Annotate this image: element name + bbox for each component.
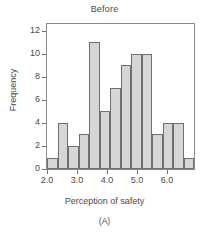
- y-axis-title: Frequency: [8, 45, 18, 135]
- x-tick-mark: [137, 170, 138, 174]
- y-tick: 10: [0, 54, 46, 55]
- y-axis: Frequency 024681012: [0, 23, 46, 171]
- y-tick: 12: [0, 31, 46, 32]
- y-tick: 6: [0, 100, 46, 101]
- y-tick-label: 2: [35, 140, 40, 151]
- histogram-bar: [184, 158, 195, 170]
- x-tick-mark: [107, 170, 108, 174]
- x-tick-label: 2.0: [35, 175, 59, 185]
- histogram-bar: [121, 65, 132, 169]
- histogram-bar: [79, 134, 90, 169]
- y-tick: 4: [0, 123, 46, 124]
- y-tick: 2: [0, 146, 46, 147]
- y-tick-label: 10: [30, 48, 40, 59]
- histogram-bar: [152, 134, 163, 169]
- histogram-bar: [68, 146, 79, 169]
- x-axis-title: Perception of safety: [0, 196, 209, 206]
- x-tick-mark: [77, 170, 78, 174]
- histogram-bar: [173, 123, 184, 169]
- histogram-bar: [100, 111, 111, 169]
- y-tick: 8: [0, 77, 46, 78]
- y-tick-label: 6: [35, 94, 40, 105]
- x-tick-mark: [167, 170, 168, 174]
- histogram-bar: [47, 158, 58, 170]
- x-tick-label: 5.0: [125, 175, 149, 185]
- x-tick-label: 6.0: [155, 175, 179, 185]
- plot-area: [46, 23, 195, 170]
- y-tick-label: 8: [35, 71, 40, 82]
- y-tick-label: 12: [30, 25, 40, 36]
- histogram-bar: [131, 54, 142, 169]
- histogram-figure: Before Frequency 024681012 2.03.04.05.06…: [0, 0, 209, 238]
- x-tick-mark: [47, 170, 48, 174]
- histogram-bar: [142, 54, 153, 169]
- x-tick-label: 3.0: [65, 175, 89, 185]
- panel-caption: (A): [0, 216, 209, 226]
- y-tick-label: 4: [35, 117, 40, 128]
- histogram-bar: [89, 42, 100, 169]
- chart-title: Before: [0, 4, 209, 14]
- y-tick: 0: [0, 169, 46, 170]
- x-axis: 2.03.04.05.06.0: [46, 170, 195, 192]
- x-tick-label: 4.0: [95, 175, 119, 185]
- bar-group: [47, 24, 194, 169]
- y-tick-label: 0: [35, 163, 40, 174]
- histogram-bar: [110, 88, 121, 169]
- histogram-bar: [58, 123, 69, 169]
- histogram-bar: [163, 123, 174, 169]
